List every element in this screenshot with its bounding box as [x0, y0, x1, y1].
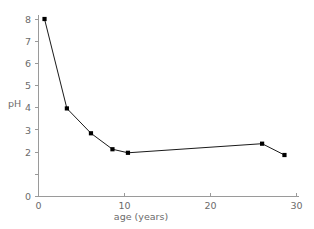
data-point-marker — [89, 131, 93, 135]
y-tick-label: 5 — [25, 80, 31, 91]
y-tick-label: 4 — [25, 102, 31, 113]
y-tick-label: 3 — [25, 125, 31, 136]
data-point-marker — [65, 106, 69, 110]
data-point-marker — [282, 153, 286, 157]
ph-vs-age-line-chart: 02345678 0102030 pH age (years) — [0, 0, 314, 229]
chart-figure: 02345678 0102030 pH age (years) — [0, 0, 314, 229]
data-point-marker — [42, 17, 46, 21]
x-tick-label: 0 — [35, 200, 41, 211]
y-tick-label: 8 — [25, 14, 31, 25]
y-tick-label: 6 — [25, 58, 31, 69]
data-point-marker — [110, 147, 114, 151]
data-point-marker — [126, 151, 130, 155]
chart-background — [0, 0, 314, 229]
x-tick-label: 10 — [118, 200, 130, 211]
y-tick-label: 2 — [25, 147, 31, 158]
y-axis-title: pH — [8, 98, 21, 109]
y-tick-label: 0 — [25, 191, 31, 202]
data-point-marker — [260, 142, 264, 146]
x-axis-title: age (years) — [114, 211, 168, 222]
x-tick-label: 30 — [290, 200, 302, 211]
y-tick-label: 7 — [25, 36, 31, 47]
x-tick-label: 20 — [204, 200, 216, 211]
